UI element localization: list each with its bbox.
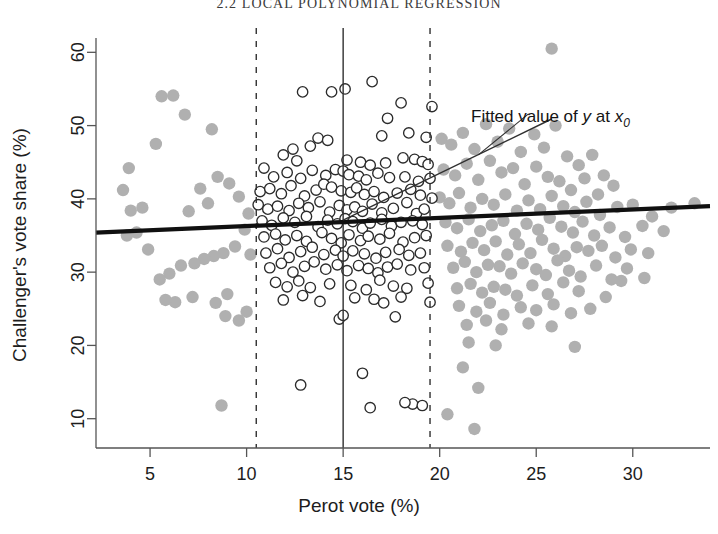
data-point: [404, 128, 414, 138]
data-point: [588, 229, 600, 241]
data-point: [286, 180, 296, 190]
data-point: [468, 423, 480, 435]
data-point: [355, 157, 365, 167]
data-point: [326, 233, 336, 243]
data-point: [326, 87, 336, 97]
data-point: [449, 169, 461, 181]
data-point: [582, 245, 594, 257]
x-tick-label: 15: [333, 464, 353, 484]
data-point: [495, 323, 507, 335]
data-point: [657, 225, 669, 237]
data-point: [369, 186, 379, 196]
data-point: [282, 282, 292, 292]
data-point: [542, 171, 554, 183]
data-point: [400, 172, 410, 182]
data-point: [332, 260, 342, 270]
data-point: [524, 247, 536, 259]
data-point: [340, 84, 350, 94]
data-point: [361, 175, 371, 185]
data-point: [466, 237, 478, 249]
data-point: [154, 273, 166, 285]
data-point: [427, 193, 437, 203]
data-point: [474, 225, 486, 237]
data-point: [398, 153, 408, 163]
data-point: [584, 303, 596, 315]
data-point: [565, 307, 577, 319]
data-point: [518, 178, 530, 190]
data-point: [388, 203, 398, 213]
data-point: [211, 171, 223, 183]
data-point: [476, 286, 488, 298]
data-point: [515, 301, 527, 313]
data-point: [390, 312, 400, 322]
data-point: [229, 240, 241, 252]
data-point: [609, 251, 621, 263]
data-point: [382, 113, 392, 123]
data-point: [486, 219, 498, 231]
data-point: [369, 294, 379, 304]
y-tick-label: 50: [68, 116, 88, 136]
data-point: [294, 198, 304, 208]
data-point: [491, 136, 503, 148]
scatter-plot-svg: 51015202530102030405060: [0, 0, 718, 534]
data-point: [607, 179, 619, 191]
data-point: [353, 260, 363, 270]
data-point: [117, 184, 129, 196]
data-point: [373, 168, 383, 178]
data-point: [265, 183, 275, 193]
data-point: [309, 257, 319, 267]
data-point: [513, 238, 525, 250]
data-point: [480, 314, 492, 326]
data-point: [367, 76, 377, 86]
data-point: [175, 259, 187, 271]
data-point: [240, 306, 252, 318]
data-point: [619, 231, 631, 243]
data-point: [468, 143, 480, 155]
data-point: [464, 201, 476, 213]
data-point: [357, 368, 367, 378]
data-point: [590, 259, 602, 271]
data-point: [380, 158, 390, 168]
data-point: [378, 298, 388, 308]
data-point: [567, 226, 579, 238]
data-point: [484, 155, 496, 167]
data-point: [540, 269, 552, 281]
data-point: [427, 101, 437, 111]
data-point: [549, 119, 561, 131]
data-point: [396, 292, 406, 302]
data-point: [600, 291, 612, 303]
data-point: [547, 298, 559, 310]
data-point: [350, 293, 360, 303]
data-point: [215, 399, 227, 411]
data-point: [359, 189, 369, 199]
y-tick-label: 60: [68, 42, 88, 62]
data-point: [580, 196, 592, 208]
data-point: [415, 248, 425, 258]
data-point: [292, 156, 302, 166]
data-point: [470, 306, 482, 318]
data-point: [571, 241, 583, 253]
data-point: [206, 123, 218, 135]
data-point: [447, 262, 459, 274]
data-point: [484, 297, 496, 309]
data-point: [488, 199, 500, 211]
data-point: [392, 259, 402, 269]
data-point: [363, 231, 373, 241]
data-point: [336, 186, 346, 196]
data-point: [270, 229, 280, 239]
data-point: [323, 135, 333, 145]
data-point: [375, 275, 385, 285]
data-point: [305, 282, 315, 292]
data-point: [522, 317, 534, 329]
data-point: [261, 248, 271, 258]
data-point: [150, 138, 162, 150]
data-point: [167, 89, 179, 101]
data-point: [515, 146, 527, 158]
data-point: [497, 308, 509, 320]
data-point: [278, 150, 288, 160]
data-point: [441, 240, 453, 252]
data-point: [276, 189, 286, 199]
data-point: [457, 127, 469, 139]
data-point: [159, 294, 171, 306]
x-tick-label: 10: [237, 464, 257, 484]
